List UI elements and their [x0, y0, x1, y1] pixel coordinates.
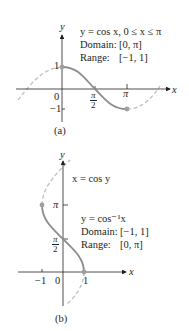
- domain-label-b: Domain:: [81, 226, 118, 238]
- equation-top-b: x = cos y: [72, 173, 110, 185]
- caption-a: (a): [54, 125, 66, 137]
- tick-0-b: 0: [55, 275, 60, 287]
- tick-pi-a: π: [123, 88, 128, 100]
- range-label-b: Range:: [81, 239, 111, 251]
- x-axis-label-a: x: [172, 84, 177, 96]
- domain-label-a: Domain:: [80, 39, 117, 51]
- arccos-dashed-bottom: [66, 272, 84, 305]
- tick-m1-b: −1: [35, 275, 46, 287]
- x-axis-label-b: x: [129, 266, 134, 278]
- tick-pi-over-2-a: π2: [90, 91, 97, 110]
- domain-value-b: [−1, 1]: [120, 226, 149, 238]
- domain-value-a: [0, π]: [119, 39, 142, 51]
- range-value-b: [0, π]: [120, 239, 143, 251]
- tick-pi-over-2-b: π2: [52, 235, 59, 254]
- y-axis-label-b: y: [60, 149, 65, 161]
- equation-b: y = cos⁻¹x: [81, 213, 126, 225]
- range-value-a: [−1, 1]: [119, 52, 148, 64]
- tick-0-a: 0: [54, 91, 59, 103]
- equation-a: y = cos x, 0 ≤ x ≤ π: [80, 26, 161, 38]
- y-axis-label-a: y: [60, 21, 65, 33]
- range-label-a: Range:: [80, 52, 110, 64]
- tick-1-b: 1: [83, 275, 88, 287]
- tick-1-a: 1: [54, 60, 59, 72]
- caption-b: (b): [55, 313, 67, 325]
- tick-pi-b: π: [53, 199, 58, 211]
- cos-dashed-right: [127, 86, 160, 109]
- tick-m1-a: −1: [50, 103, 61, 115]
